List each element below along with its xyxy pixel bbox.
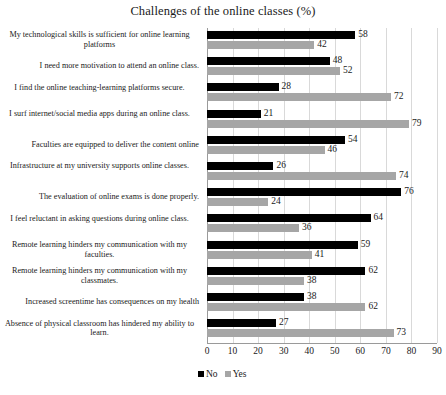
bar-value-label: 58 xyxy=(358,30,368,39)
bar-value-label: 64 xyxy=(374,213,384,222)
bar-value-label: 73 xyxy=(397,328,407,337)
bar-group: 5842 xyxy=(207,31,437,51)
x-tick-label-70: 70 xyxy=(381,346,391,356)
bar-no xyxy=(207,267,365,275)
bar-value-label: 41 xyxy=(315,250,325,259)
category-label: Increased screentime has consequences on… xyxy=(0,297,199,307)
bar-no xyxy=(207,319,276,327)
bar-value-label: 46 xyxy=(328,145,338,154)
bar-group: 6238 xyxy=(207,267,437,287)
bar-group: 2773 xyxy=(207,319,437,339)
bar-group: 3862 xyxy=(207,293,437,313)
bar-no xyxy=(207,162,273,170)
x-tick-label-10: 10 xyxy=(228,346,238,356)
category-label: Remote learning hinders my communication… xyxy=(0,240,199,259)
bar-value-label: 27 xyxy=(279,318,289,327)
bar-no xyxy=(207,241,358,249)
bar-value-label: 48 xyxy=(333,56,343,65)
bar-value-label: 38 xyxy=(307,292,317,301)
chart-title: Challenges of the online classes (%) xyxy=(0,4,446,19)
x-tick-label-50: 50 xyxy=(330,346,340,356)
bar-no xyxy=(207,110,261,118)
bar-value-label: 26 xyxy=(276,161,286,170)
category-axis-labels: My technological skills is sufficient fo… xyxy=(0,28,203,343)
bar-value-label: 76 xyxy=(404,187,414,196)
x-tick-label-0: 0 xyxy=(205,346,210,356)
bar-value-label: 52 xyxy=(343,66,353,75)
bar-value-label: 62 xyxy=(368,302,378,311)
category-label: Remote learning hinders my communication… xyxy=(0,266,199,285)
bar-yes xyxy=(207,93,391,101)
bar-value-label: 38 xyxy=(307,276,317,285)
bar-no xyxy=(207,188,401,196)
chart-container: Challenges of the online classes (%) My … xyxy=(0,0,446,395)
bar-yes xyxy=(207,41,314,49)
bar-yes xyxy=(207,251,312,259)
category-label: The evaluation of online exams is done p… xyxy=(0,192,199,202)
legend-swatch-icon xyxy=(225,371,231,377)
x-tick-label-30: 30 xyxy=(279,346,289,356)
bar-yes xyxy=(207,277,304,285)
category-label: Absence of physical classroom has hinder… xyxy=(0,319,199,338)
legend-item-yes[interactable]: Yes xyxy=(225,369,247,379)
bar-group: 5446 xyxy=(207,136,437,156)
bar-no xyxy=(207,57,330,65)
legend-label: Yes xyxy=(233,369,247,379)
bar-yes xyxy=(207,172,396,180)
x-tick-label-60: 60 xyxy=(356,346,366,356)
x-axis-line xyxy=(207,343,437,344)
bar-group: 4852 xyxy=(207,57,437,77)
bar-value-label: 59 xyxy=(361,240,371,249)
bar-group: 7624 xyxy=(207,188,437,208)
legend-item-no[interactable]: No xyxy=(198,369,218,379)
category-label: Faculties are equipped to deliver the co… xyxy=(0,140,199,150)
plot-area: 5842485228722179544626747624643659416238… xyxy=(207,28,437,343)
bar-no xyxy=(207,293,304,301)
category-label: I need more motivation to attend an onli… xyxy=(0,61,199,71)
bar-group: 2872 xyxy=(207,83,437,103)
bar-value-label: 74 xyxy=(399,171,409,180)
category-label: Infrastructure at my university supports… xyxy=(0,161,199,171)
bar-yes xyxy=(207,67,340,75)
x-tick-label-90: 90 xyxy=(432,346,442,356)
bar-value-label: 28 xyxy=(282,82,292,91)
legend-label: No xyxy=(206,369,218,379)
bar-no xyxy=(207,136,345,144)
x-tick-label-40: 40 xyxy=(304,346,314,356)
bar-no xyxy=(207,31,355,39)
x-axis-tick-labels: 0102030405060708090 xyxy=(207,346,437,360)
bar-value-label: 72 xyxy=(394,92,404,101)
gridline-90 xyxy=(437,28,438,343)
bar-yes xyxy=(207,224,299,232)
bar-yes xyxy=(207,146,325,154)
bar-no xyxy=(207,83,279,91)
bar-value-label: 21 xyxy=(264,109,274,118)
chart-legend: NoYes xyxy=(198,369,246,379)
bar-group: 2179 xyxy=(207,110,437,130)
category-label: I surf internet/social media apps during… xyxy=(0,109,199,119)
x-tick-label-20: 20 xyxy=(253,346,263,356)
bar-group: 5941 xyxy=(207,241,437,261)
bar-value-label: 24 xyxy=(271,197,281,206)
bar-rows: 5842485228722179544626747624643659416238… xyxy=(207,28,437,343)
x-tick-label-80: 80 xyxy=(407,346,417,356)
bar-value-label: 54 xyxy=(348,135,358,144)
bar-yes xyxy=(207,329,394,337)
bar-value-label: 42 xyxy=(317,40,327,49)
bar-yes xyxy=(207,198,268,206)
category-label: I find the online teaching-learning plat… xyxy=(0,83,199,93)
bar-yes xyxy=(207,303,365,311)
bar-value-label: 36 xyxy=(302,223,312,232)
bar-group: 2674 xyxy=(207,162,437,182)
legend-swatch-icon xyxy=(198,371,204,377)
bar-value-label: 79 xyxy=(412,119,422,128)
category-label: My technological skills is sufficient fo… xyxy=(0,30,199,49)
bar-no xyxy=(207,214,371,222)
bar-value-label: 62 xyxy=(368,266,378,275)
bar-yes xyxy=(207,120,409,128)
category-label: I feel reluctant in asking questions dur… xyxy=(0,214,199,224)
bar-group: 6436 xyxy=(207,214,437,234)
